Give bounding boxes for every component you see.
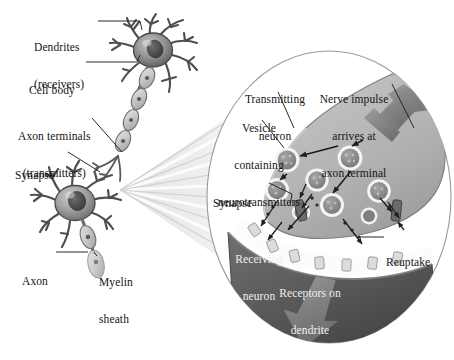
- label-synapse-inset: Synapse: [213, 172, 252, 234]
- figure-canvas: Dendrites (receivers) Cell body Axon ter…: [0, 0, 454, 360]
- vesicle: [361, 208, 378, 225]
- label-myelin-sheath: Myelin sheath: [99, 251, 133, 350]
- upper-axon-segments: [112, 65, 157, 154]
- label-receptors-on-dendrite: Receptors on dendrite: [256, 262, 364, 360]
- label-reuptake: Reuptake: [386, 231, 430, 293]
- label-synapse-left: Synapse: [15, 144, 54, 206]
- label-axon: Axon: [22, 250, 48, 312]
